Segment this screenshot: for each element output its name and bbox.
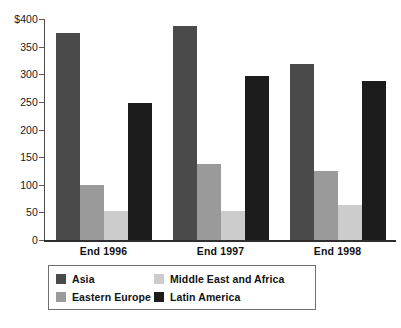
bar-latin-america-end-1998: [362, 81, 386, 240]
bar-middle-east-and-africa-end-1996: [104, 211, 128, 240]
bar-latin-america-end-1997: [245, 76, 269, 240]
x-category-label-0: End 1996: [45, 245, 162, 257]
bar-latin-america-end-1996: [128, 103, 152, 240]
legend: AsiaEastern EuropeMiddle East and Africa…: [48, 265, 316, 310]
plot-area: 050100150200250300350$400 End 1996End 19…: [0, 0, 401, 262]
x-category-label-2: End 1998: [279, 245, 396, 257]
legend-swatch-icon: [56, 292, 66, 302]
legend-item-middle-east-and-africa[interactable]: Middle East and Africa: [154, 272, 284, 286]
bar-eastern-europe-end-1996: [80, 185, 104, 240]
legend-item-asia[interactable]: Asia: [56, 272, 95, 286]
legend-swatch-icon: [154, 274, 164, 284]
legend-item-latin-america[interactable]: Latin America: [154, 290, 240, 304]
x-category-label-1: End 1997: [162, 245, 279, 257]
bar-middle-east-and-africa-end-1998: [338, 205, 362, 240]
legend-swatch-icon: [154, 292, 164, 302]
bar-chart: 050100150200250300350$400 End 1996End 19…: [0, 0, 401, 328]
bar-asia-end-1997: [173, 26, 197, 240]
bars-layer: [0, 0, 401, 262]
legend-item-eastern-europe[interactable]: Eastern Europe: [56, 290, 151, 304]
legend-label: Asia: [72, 273, 95, 285]
bar-eastern-europe-end-1997: [197, 164, 221, 240]
legend-label: Middle East and Africa: [170, 273, 284, 285]
bar-asia-end-1998: [290, 64, 314, 240]
legend-swatch-icon: [56, 274, 66, 284]
bar-middle-east-and-africa-end-1997: [221, 211, 245, 240]
bar-eastern-europe-end-1998: [314, 171, 338, 240]
bar-asia-end-1996: [56, 33, 80, 240]
legend-label: Latin America: [170, 291, 240, 303]
legend-label: Eastern Europe: [72, 291, 151, 303]
